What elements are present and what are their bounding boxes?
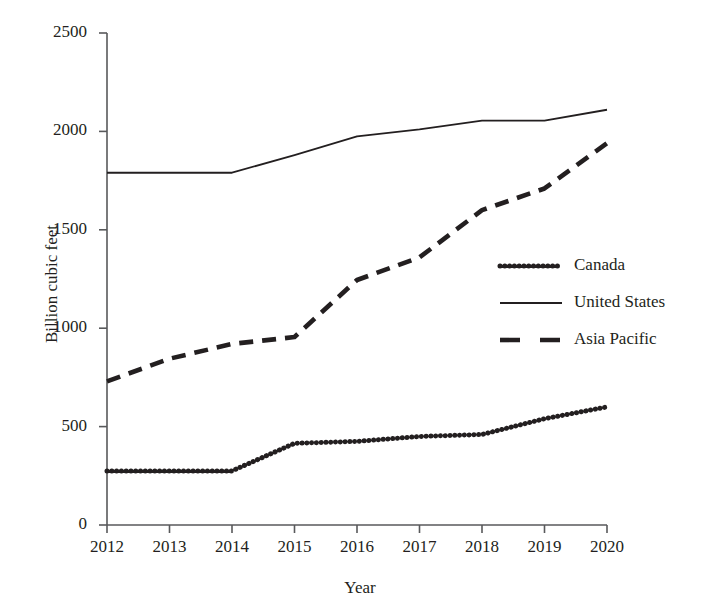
x-axis-ticks <box>107 525 607 533</box>
legend-label-united-states: United States <box>574 292 665 312</box>
line-chart: Billion cubic feet Year 0500100015002000… <box>0 0 706 615</box>
axis-lines <box>99 33 607 533</box>
series-line-united-states <box>107 110 607 173</box>
legend-swatches <box>500 266 562 340</box>
y-axis-ticks <box>99 33 107 525</box>
data-series-layer <box>107 110 607 471</box>
legend-label-asia-pacific: Asia Pacific <box>574 329 657 349</box>
series-line-canada <box>107 407 607 471</box>
series-line-asia-pacific <box>107 143 607 381</box>
legend-label-canada: Canada <box>574 255 625 275</box>
